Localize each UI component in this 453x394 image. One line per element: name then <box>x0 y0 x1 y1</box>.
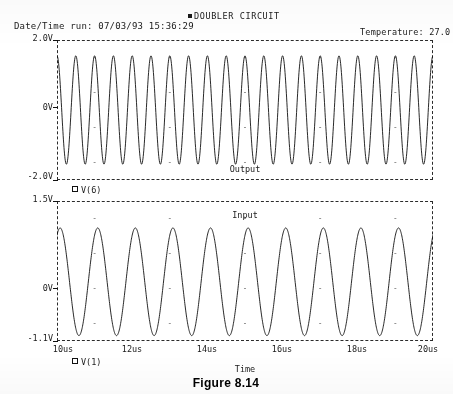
xtick-20us: 20us <box>418 345 438 354</box>
date-time-run-label: Date/Time run: 07/03/93 15:36:29 <box>14 22 194 31</box>
temperature-label: Temperature: 27.0 <box>360 28 450 37</box>
plot-title: DOUBLER CIRCUIT <box>188 12 280 21</box>
figure-caption: Figure 8.14 <box>193 377 260 389</box>
output-plot-panel <box>57 40 433 180</box>
xtick-16us: 16us <box>272 345 292 354</box>
input-ytick-mid: 0V <box>4 284 53 293</box>
legend-input-text: V(1) <box>81 357 101 367</box>
input-trace-label: Input <box>232 211 258 220</box>
input-plot-panel <box>57 201 433 341</box>
input-ytick-min: -1.1V <box>4 334 53 343</box>
xtick-14us: 14us <box>197 345 217 354</box>
probe-plot-page: Date/Time run: 07/03/93 15:36:29 DOUBLER… <box>0 0 453 394</box>
output-ytick-max: 2.0V <box>4 34 53 43</box>
x-axis-title: Time <box>235 365 255 374</box>
output-ytick-mid-mark <box>53 107 58 108</box>
title-marker-icon <box>188 14 192 18</box>
output-ytick-mid: 0V <box>4 103 53 112</box>
legend-output[interactable]: V(6) <box>72 186 101 195</box>
legend-output-text: V(6) <box>81 185 101 195</box>
output-ytick-max-mark <box>53 40 58 41</box>
output-waveform-trace <box>57 40 433 180</box>
output-ytick-min: -2.0V <box>4 172 53 181</box>
xtick-10us: 10us <box>53 345 73 354</box>
input-ytick-max: 1.5V <box>4 195 53 204</box>
legend-input[interactable]: V(1) <box>72 358 101 367</box>
input-ytick-mid-mark <box>53 288 58 289</box>
input-ytick-min-mark <box>53 341 58 342</box>
xtick-18us: 18us <box>347 345 367 354</box>
plot-title-text: DOUBLER CIRCUIT <box>194 11 280 21</box>
output-trace-label: Output <box>230 165 261 174</box>
xtick-12us: 12us <box>122 345 142 354</box>
legend-marker-square-icon <box>72 186 78 192</box>
input-ytick-max-mark <box>53 201 58 202</box>
output-ytick-min-mark <box>53 180 58 181</box>
legend-marker-square-icon <box>72 358 78 364</box>
input-waveform-trace <box>57 201 433 341</box>
